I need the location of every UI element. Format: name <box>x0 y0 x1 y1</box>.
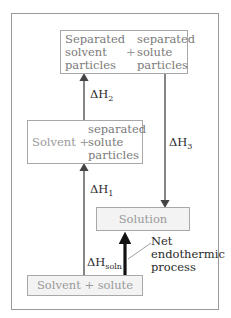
annotation-line3: process <box>151 261 225 274</box>
box-separated-both: Separated solvent particles + separated … <box>60 30 188 74</box>
annotation-leader <box>128 243 151 259</box>
box-solution: Solution <box>96 207 190 231</box>
label-dh3: ΔH3 <box>169 136 192 153</box>
label-dh2: ΔH2 <box>90 88 113 105</box>
top-left-line3: particles <box>65 59 125 72</box>
net-endothermic-annotation: Net endothermic process <box>151 235 225 274</box>
label-dh1: ΔH1 <box>90 183 113 200</box>
solution-text: Solution <box>97 208 189 226</box>
middle-right-line3: particles <box>88 149 146 162</box>
top-plus: + <box>126 46 136 59</box>
bottom-text: Solvent + solute <box>28 276 142 292</box>
label-dhsoln: ΔHsoln <box>87 256 122 273</box>
box-solvent-separated-solute: Solvent + separated solute particles <box>27 120 143 164</box>
top-right-line3: particles <box>137 59 195 72</box>
middle-left-text: Solvent <box>32 135 76 149</box>
box-solvent-solute: Solvent + solute <box>27 275 143 296</box>
